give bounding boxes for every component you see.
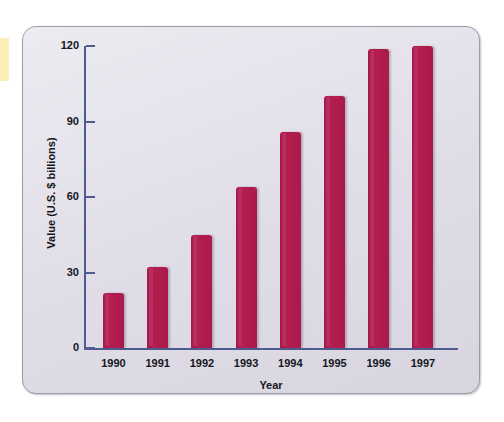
- x-axis-tick-label: 1991: [135, 357, 181, 369]
- chart-panel: 0306090120 Value (U.S. $ billions) 19901…: [22, 26, 480, 394]
- bar-highlight: [193, 236, 197, 346]
- page-edge-marker-strip: [0, 38, 9, 81]
- y-axis-tick: [86, 121, 95, 123]
- y-axis-line: [84, 46, 86, 350]
- y-axis-tick-label: 120: [41, 39, 79, 51]
- x-axis-tick-label: 1993: [223, 357, 269, 369]
- bar: [103, 293, 124, 348]
- bar: [324, 96, 345, 348]
- bar-highlight: [105, 294, 109, 346]
- bar-highlight: [282, 133, 286, 346]
- bar: [191, 235, 212, 348]
- x-axis-tick-label: 1992: [179, 357, 225, 369]
- bar-highlight: [238, 188, 242, 346]
- y-axis-tick: [86, 272, 95, 274]
- bar-highlight: [149, 268, 153, 346]
- y-axis-title: Value (U.S. $ billions): [45, 103, 57, 283]
- y-axis-tick: [86, 196, 95, 198]
- y-axis-tick: [86, 347, 95, 349]
- bar: [147, 267, 168, 348]
- x-axis-tick-label: 1995: [312, 357, 358, 369]
- figure-root: 0306090120 Value (U.S. $ billions) 19901…: [0, 0, 504, 422]
- bar-highlight: [370, 50, 374, 346]
- bar: [368, 49, 389, 348]
- x-axis-line: [84, 348, 458, 350]
- bar-highlight: [414, 47, 418, 346]
- bar-highlight: [326, 97, 330, 346]
- x-axis-tick-label: 1997: [400, 357, 446, 369]
- x-axis-tick-label: 1996: [356, 357, 402, 369]
- x-axis-tick-label: 1990: [91, 357, 137, 369]
- y-axis-tick-label: 0: [41, 341, 79, 353]
- bar: [280, 132, 301, 348]
- x-axis-title: Year: [84, 379, 458, 391]
- bar: [236, 187, 257, 348]
- x-axis-tick-label: 1994: [267, 357, 313, 369]
- y-axis-tick: [86, 45, 95, 47]
- bar: [412, 46, 433, 348]
- plot-area: 0306090120 Value (U.S. $ billions) 19901…: [23, 27, 479, 393]
